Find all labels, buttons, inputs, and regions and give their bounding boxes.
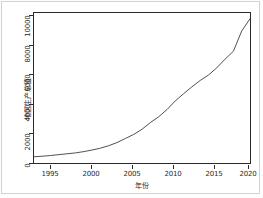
y-tick-label: 10000 xyxy=(25,16,32,37)
data-series-line xyxy=(34,13,250,163)
x-tick-label: 2015 xyxy=(205,170,222,178)
y-tick-label: 6000 xyxy=(25,75,32,92)
x-tick-label: 1995 xyxy=(41,170,58,178)
x-tick-mark xyxy=(50,165,51,169)
plot-panel xyxy=(33,12,251,164)
x-tick-mark xyxy=(132,165,133,169)
x-tick-label: 2010 xyxy=(164,170,181,178)
x-tick-mark xyxy=(248,165,249,169)
x-tick-label: 2000 xyxy=(82,170,99,178)
chart-figure: 地区生产总值 0 2000 4000 6000 8000 10000 1995 … xyxy=(0,0,263,198)
y-tick-label: 8000 xyxy=(25,46,32,63)
y-tick-label: 0 xyxy=(25,164,32,168)
x-tick-label: 2005 xyxy=(123,170,140,178)
x-tick-mark xyxy=(91,165,92,169)
y-tick-label: 4000 xyxy=(25,105,32,122)
x-axis-title: 年份 xyxy=(135,180,149,190)
x-tick-mark xyxy=(214,165,215,169)
x-tick-mark xyxy=(173,165,174,169)
x-tick-label: 2020 xyxy=(239,170,256,178)
y-tick-label: 2000 xyxy=(25,134,32,151)
